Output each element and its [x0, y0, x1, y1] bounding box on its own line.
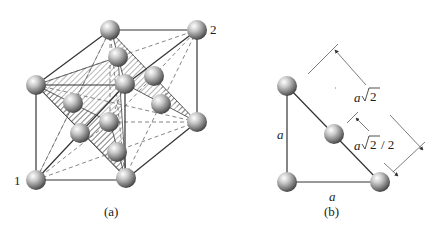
svg-text:a: a [354, 138, 361, 153]
corner-label-1: 1 [14, 173, 21, 188]
atom-face-center [99, 112, 119, 132]
caption-b: (b) [324, 204, 339, 219]
fcc-diagram: 1 2 (a) a [0, 0, 438, 238]
label-side-horizontal: a [329, 189, 336, 204]
atom-corner-back-top-left [100, 20, 120, 40]
atom-corner-2 [187, 20, 207, 40]
svg-text:/ 2: / 2 [381, 137, 394, 152]
dimension-lines [308, 44, 425, 176]
atom-bottom-right [370, 172, 390, 192]
svg-text:2: 2 [370, 137, 377, 152]
atom-face-bottom [107, 142, 127, 162]
atom-face-front [70, 123, 90, 143]
atom-corner-1 [26, 170, 46, 190]
fcc-unit-cell: 1 2 (a) [14, 20, 217, 219]
atom-face-right [151, 94, 171, 114]
atom-corner-front-bottom-right [116, 168, 136, 188]
label-side-vertical: a [277, 127, 284, 142]
close-packed-triangle: a a a 2 a 2 / 2 (b) [277, 44, 425, 219]
caption-a: (a) [104, 204, 118, 219]
atom-corner-back-bottom-right [187, 112, 207, 132]
atom-middle [324, 124, 344, 144]
atom-face-back [144, 66, 164, 86]
atom-face-left [63, 93, 83, 113]
corner-label-2: 2 [210, 22, 217, 37]
atom-top [277, 76, 297, 96]
atom-face-top [108, 47, 128, 67]
svg-text:2: 2 [370, 89, 377, 104]
atom-corner-front-top-left [26, 75, 46, 95]
label-diagonal-half: a 2 / 2 [354, 136, 394, 153]
atom-corner-front-top-right [115, 74, 135, 94]
svg-text:a: a [354, 90, 361, 105]
label-diagonal-full: a 2 [354, 88, 380, 105]
atom-bottom-left [277, 172, 297, 192]
